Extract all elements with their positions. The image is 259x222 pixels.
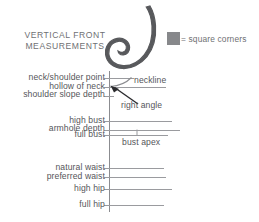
measurement-label: shoulder slope depth (23, 89, 105, 99)
measurement-tick-line (104, 168, 164, 169)
measurement-tick-line (104, 177, 166, 178)
measurement-tick-line (104, 96, 114, 97)
legend-label: = square corners (181, 34, 246, 44)
measurement-label: high hip (74, 183, 105, 193)
annotation-right-angle: right angle (121, 100, 162, 110)
measurement-label: preferred waist (47, 171, 105, 181)
filled-square-icon (167, 32, 180, 45)
spiral-hook-icon (104, 4, 166, 72)
diagram-canvas: VERTICAL FRONT MEASUREMENTS = square cor… (0, 0, 259, 222)
legend: = square corners (167, 32, 246, 45)
vertical-axis-line (109, 71, 110, 212)
measurement-tick-line (104, 121, 172, 122)
measurement-label: full bust (74, 129, 105, 139)
measurement-tick-line (104, 205, 164, 206)
measurement-label: full hip (79, 199, 105, 209)
measurement-tick-line (104, 189, 172, 190)
annotation-bust-apex: bust apex (122, 137, 160, 147)
measurement-tick-line (104, 130, 180, 131)
spiral-hook-shape (104, 4, 166, 72)
measurement-tick-line (104, 87, 166, 88)
annotation-neckline: neckline (134, 75, 166, 85)
measurement-tick-line (104, 78, 134, 79)
